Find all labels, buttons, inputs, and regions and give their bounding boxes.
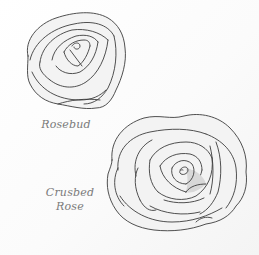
crushed-rose-caption: Crusbed Rose xyxy=(40,186,100,214)
rosebud-drawing xyxy=(27,13,125,109)
rosebud-caption: Rosebud xyxy=(36,118,96,132)
crushed-rose-drawing xyxy=(107,115,246,231)
rose-illustration-page: Rosebud Crusbed Rose xyxy=(0,0,259,255)
crushed-rose-caption-line2: Rose xyxy=(40,200,100,214)
crushed-rose-caption-line1: Crusbed xyxy=(40,186,100,200)
